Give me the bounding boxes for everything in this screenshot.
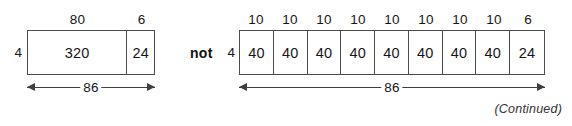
- right-arrowhead-end-icon: [537, 83, 545, 91]
- left-total-label: 86: [80, 80, 101, 95]
- right-top-labels: 10 10 10 10 10 10 10 10 6: [239, 12, 545, 28]
- right-top-label-0: 10: [239, 12, 273, 28]
- right-cell-6: 40: [443, 31, 477, 74]
- left-cell-0: 320: [28, 31, 127, 74]
- right-top-label-7: 10: [477, 12, 511, 28]
- left-cell-1: 24: [127, 31, 154, 74]
- right-top-label-2: 10: [307, 12, 341, 28]
- right-arrowhead-start-icon: [239, 83, 247, 91]
- right-total-dimension: 86: [239, 78, 545, 96]
- right-cell-5: 40: [409, 31, 443, 74]
- right-cell-0: 40: [240, 31, 274, 74]
- right-top-label-8: 6: [511, 12, 545, 28]
- left-height-label: 4: [7, 45, 22, 61]
- right-top-label-3: 10: [341, 12, 375, 28]
- right-top-label-4: 10: [375, 12, 409, 28]
- right-height-label: 4: [220, 45, 235, 61]
- figure-canvas: 80 6 4 320 24 86 not 10 10 10 10 10 10: [0, 0, 572, 126]
- right-top-label-5: 10: [409, 12, 443, 28]
- connector-word: not: [190, 45, 213, 61]
- right-cell-7: 40: [476, 31, 510, 74]
- left-top-label-0: 80: [27, 12, 128, 28]
- left-total-dimension: 86: [27, 78, 155, 96]
- right-cell-3: 40: [341, 31, 375, 74]
- right-top-label-1: 10: [273, 12, 307, 28]
- left-top-label-1: 6: [128, 12, 155, 28]
- right-total-label: 86: [381, 80, 402, 95]
- right-top-label-6: 10: [443, 12, 477, 28]
- continued-note: (Continued): [494, 102, 562, 116]
- left-arrowhead-start-icon: [27, 83, 35, 91]
- left-arrowhead-end-icon: [147, 83, 155, 91]
- right-cell-1: 40: [274, 31, 308, 74]
- right-cell-8: 24: [510, 31, 544, 74]
- right-cell-4: 40: [375, 31, 409, 74]
- left-top-labels: 80 6: [27, 12, 155, 28]
- left-box-row: 320 24: [27, 30, 155, 75]
- right-box-row: 40 40 40 40 40 40 40 40 24: [239, 30, 545, 75]
- right-cell-2: 40: [308, 31, 342, 74]
